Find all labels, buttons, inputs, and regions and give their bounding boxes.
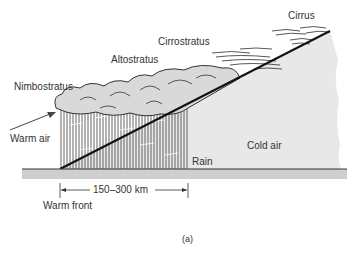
label-cold-air: Cold air: [247, 141, 281, 151]
dimension-arrow-left-icon: [61, 188, 66, 192]
label-cirrostratus: Cirrostratus: [158, 37, 210, 47]
label-warm-air: Warm air: [10, 134, 50, 144]
label-altostratus: Altostratus: [111, 55, 158, 65]
warm-air-arrow-icon: [10, 112, 56, 130]
label-rain: Rain: [192, 157, 213, 167]
label-distance: 150–300 km: [93, 185, 148, 195]
dimension-arrow-right-icon: [182, 188, 187, 192]
panel-label: (a): [182, 235, 193, 244]
ground-strip: [22, 169, 347, 179]
label-warm-front: Warm front: [43, 201, 92, 211]
label-cirrus: Cirrus: [288, 11, 315, 21]
label-nimbostratus: Nimbostratus: [14, 82, 73, 92]
